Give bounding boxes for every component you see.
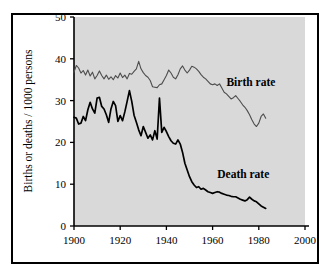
y-tick-label: 40 [55,53,67,65]
series-annotation-death-rate: Death rate [217,168,269,180]
line-chart: 01020304050 190019201940196019802000 Bir… [0,0,330,277]
y-axis-title: Births or deaths / 1000 persons [22,49,35,192]
x-tick-label: 1900 [63,234,86,246]
x-axis: 190019201940196019802000 [63,226,317,246]
x-tick-label: 1920 [109,234,132,246]
x-tick-label: 2000 [294,234,317,246]
y-tick-label: 20 [55,136,67,148]
x-tick-label: 1980 [248,234,271,246]
x-axis-tick-labels: 190019201940196019802000 [63,234,317,246]
x-tick-label: 1940 [155,234,178,246]
y-axis-tick-labels: 01020304050 [55,11,67,232]
y-tick-label: 10 [55,178,67,190]
y-tick-label: 30 [55,95,67,107]
series-annotation-birth-rate: Birth rate [226,76,275,88]
y-tick-label: 50 [55,11,67,23]
x-tick-label: 1960 [202,234,225,246]
y-tick-label: 0 [61,220,67,232]
figure-container: 01020304050 190019201940196019802000 Bir… [0,0,330,277]
y-axis: 01020304050 [55,11,74,232]
